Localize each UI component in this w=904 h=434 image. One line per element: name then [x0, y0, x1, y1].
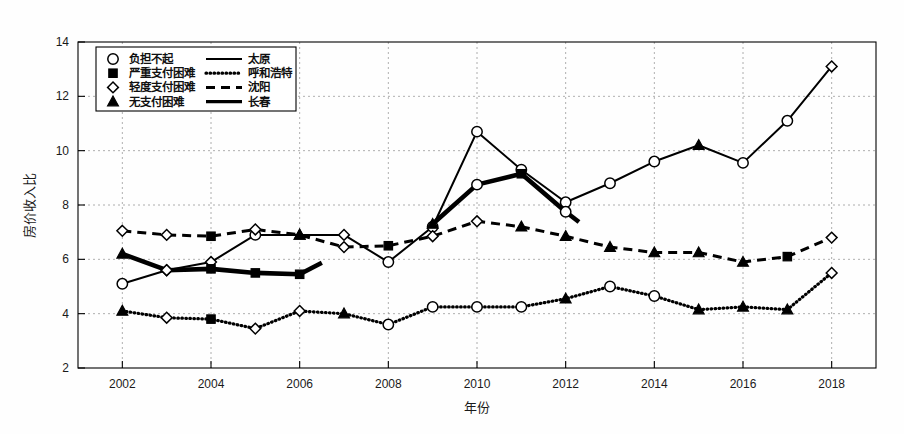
data-point-marker-square [207, 232, 215, 240]
data-point-marker-square [109, 69, 117, 77]
y-tick-label: 4 [62, 307, 69, 321]
legend-series-label: 沈阳 [248, 80, 270, 94]
legend-marker-label-triangle: 无支付困难 [128, 95, 185, 109]
x-tick-label: 2012 [552, 377, 579, 391]
x-tick-label: 2006 [286, 377, 313, 391]
x-tick-label: 2016 [730, 377, 757, 391]
data-point-marker-square [783, 252, 791, 260]
legend-series-label: 太原 [247, 52, 271, 66]
chart-legend: 负担不起太原严重支付困难呼和浩特轻度支付困难沈阳无支付困难长春 [96, 47, 296, 111]
x-tick-label: 2014 [641, 377, 668, 391]
data-point-marker-square [295, 270, 303, 278]
data-point-marker-circle [427, 302, 437, 312]
x-tick-label: 2008 [375, 377, 402, 391]
y-axis-title: 房价收入比 [22, 173, 37, 238]
data-point-marker-circle [649, 156, 659, 166]
chart-figure: 2468101214200220042006200820102012201420… [0, 0, 904, 434]
data-point-marker-circle [117, 279, 127, 289]
data-point-marker-circle [560, 207, 570, 217]
data-point-marker-square [207, 315, 215, 323]
data-point-marker-square [384, 242, 392, 250]
legend-series-label: 呼和浩特 [248, 66, 293, 80]
data-point-marker-circle [472, 126, 482, 136]
data-point-marker-circle [383, 257, 393, 267]
data-point-marker-circle [108, 54, 118, 64]
y-tick-label: 10 [56, 144, 70, 158]
legend-marker-label-diamond: 轻度支付困难 [129, 80, 196, 94]
y-tick-label: 8 [62, 198, 69, 212]
y-tick-label: 6 [62, 252, 69, 266]
legend-marker-label-circle: 负担不起 [129, 52, 174, 66]
data-point-marker-circle [472, 179, 482, 189]
x-tick-label: 2004 [198, 377, 225, 391]
data-point-marker-circle [472, 302, 482, 312]
data-point-marker-circle [516, 302, 526, 312]
data-point-marker-circle [738, 158, 748, 168]
data-point-marker-square [251, 269, 259, 277]
x-tick-label: 2010 [464, 377, 491, 391]
legend-series-label: 长春 [248, 95, 271, 109]
data-point-marker-square [517, 170, 525, 178]
x-tick-label: 2018 [818, 377, 845, 391]
x-tick-label: 2002 [109, 377, 136, 391]
x-axis-title: 年份 [464, 400, 490, 415]
y-tick-label: 2 [62, 361, 69, 375]
data-point-marker-square [207, 265, 215, 273]
data-point-marker-circle [605, 281, 615, 291]
y-tick-label: 14 [56, 35, 70, 49]
data-point-marker-circle [605, 178, 615, 188]
house-price-income-ratio-line-chart: 2468101214200220042006200820102012201420… [0, 0, 904, 434]
y-tick-label: 12 [56, 89, 70, 103]
legend-marker-label-square: 严重支付困难 [128, 66, 196, 80]
data-point-marker-circle [782, 116, 792, 126]
data-point-marker-circle [649, 291, 659, 301]
data-point-marker-circle [383, 319, 393, 329]
